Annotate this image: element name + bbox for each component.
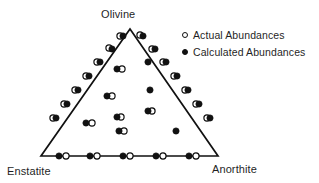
data-point-calculated — [145, 59, 151, 65]
legend-label-actual: Actual Abundances — [193, 29, 285, 41]
data-point-calculated — [153, 153, 159, 159]
data-point-calculated — [120, 153, 126, 159]
data-point-actual — [193, 153, 199, 159]
data-point-calculated — [140, 33, 146, 39]
legend-item-calculated: Calculated Abundances — [179, 44, 317, 59]
data-point-calculated — [185, 87, 191, 93]
data-point-calculated — [64, 101, 70, 107]
data-point-actual — [94, 153, 100, 159]
filled-circle-icon — [179, 49, 191, 55]
data-point-calculated — [147, 87, 153, 93]
legend-item-actual: Actual Abundances — [179, 27, 317, 42]
vertex-label-anorthite: Anorthite — [212, 163, 257, 175]
data-point-actual — [160, 153, 166, 159]
data-point-calculated — [116, 128, 122, 134]
data-point-calculated — [186, 153, 192, 159]
data-point-calculated — [174, 73, 180, 79]
data-point-calculated — [120, 33, 126, 39]
data-point-actual — [127, 153, 133, 159]
data-point-calculated — [196, 101, 202, 107]
ternary-diagram: Olivine Enstatite Anorthite Actual Abund… — [0, 0, 319, 183]
data-point-calculated — [97, 59, 103, 65]
vertex-label-enstatite: Enstatite — [7, 165, 51, 177]
data-point-calculated — [207, 115, 213, 121]
data-point-calculated — [104, 93, 110, 99]
open-circle-icon — [179, 32, 191, 38]
data-point-calculated — [56, 153, 62, 159]
legend-label-calculated: Calculated Abundances — [193, 46, 305, 58]
data-point-calculated — [109, 46, 115, 52]
data-point-calculated — [87, 153, 93, 159]
data-point-calculated — [114, 114, 120, 120]
data-point-calculated — [75, 87, 81, 93]
data-point-calculated — [114, 66, 120, 72]
data-point-calculated — [86, 73, 92, 79]
data-point-actual — [63, 153, 69, 159]
vertex-label-olivine: Olivine — [101, 8, 135, 20]
data-point-calculated — [53, 115, 59, 121]
data-point-actual — [89, 120, 95, 126]
data-point-calculated — [163, 59, 169, 65]
data-point-calculated — [152, 46, 158, 52]
data-point-calculated — [83, 120, 89, 126]
data-point-calculated — [173, 128, 179, 134]
legend: Actual Abundances Calculated Abundances — [179, 27, 317, 61]
data-point-calculated — [145, 108, 151, 114]
